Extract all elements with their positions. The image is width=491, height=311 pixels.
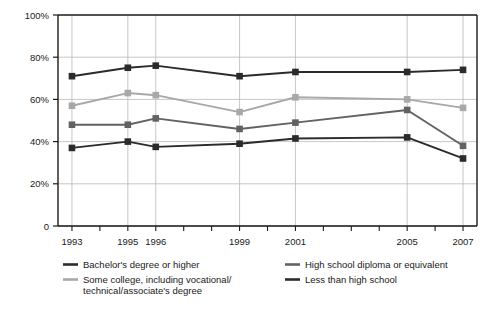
- data-point-marker: [460, 67, 467, 74]
- data-point-marker: [404, 69, 411, 76]
- data-point-marker: [404, 134, 411, 141]
- data-point-marker: [460, 155, 467, 162]
- legend-item: Bachelor's degree or higher: [63, 259, 199, 270]
- y-axis-tick-label: 100%: [25, 10, 50, 21]
- data-point-marker: [125, 64, 132, 71]
- data-point-marker: [125, 138, 132, 145]
- x-axis-tick-label: 1999: [229, 236, 250, 247]
- legend-label: High school diploma or equivalent: [305, 259, 448, 270]
- x-axis-tick-label: 2007: [452, 236, 473, 247]
- data-point-marker: [292, 135, 299, 142]
- y-axis-tick-label: 80%: [30, 52, 50, 63]
- data-point-marker: [404, 96, 411, 103]
- x-axis-tick-label: 2005: [397, 236, 418, 247]
- data-point-marker: [152, 144, 159, 151]
- x-axis-tick-label: 1993: [61, 236, 82, 247]
- data-point-marker: [236, 73, 243, 80]
- x-axis-tick-label: 1995: [117, 236, 138, 247]
- legend-item: technical/associate's degree: [83, 285, 202, 296]
- data-point-marker: [460, 105, 467, 112]
- data-point-marker: [125, 121, 132, 128]
- y-axis-tick-label: 40%: [30, 136, 50, 147]
- data-point-marker: [236, 140, 243, 147]
- data-point-marker: [69, 102, 76, 109]
- data-point-marker: [236, 126, 243, 133]
- data-point-marker: [292, 119, 299, 126]
- x-axis-tick-label: 1996: [145, 236, 166, 247]
- data-point-marker: [125, 90, 132, 97]
- y-axis-tick-label: 20%: [30, 178, 50, 189]
- data-point-marker: [152, 92, 159, 99]
- legend-item: High school diploma or equivalent: [285, 259, 448, 270]
- chart-container: 100%80%60%40%20%0 1993199519961999200120…: [0, 0, 491, 311]
- legend-item: Some college, including vocational/: [63, 274, 232, 285]
- line-chart: 100%80%60%40%20%0 1993199519961999200120…: [0, 0, 491, 311]
- y-axis-tick-label: 60%: [30, 94, 50, 105]
- data-point-marker: [460, 143, 467, 150]
- data-point-marker: [69, 73, 76, 80]
- data-point-marker: [69, 145, 76, 152]
- data-point-marker: [292, 69, 299, 76]
- x-axis-tick-label: 2001: [285, 236, 306, 247]
- data-point-marker: [292, 94, 299, 101]
- legend-label: Bachelor's degree or higher: [83, 259, 199, 270]
- data-point-marker: [152, 62, 159, 69]
- data-point-marker: [69, 121, 76, 128]
- data-point-marker: [152, 115, 159, 122]
- legend-label: Less than high school: [305, 274, 397, 285]
- data-point-marker: [404, 107, 411, 114]
- legend-label: Some college, including vocational/: [83, 274, 232, 285]
- legend-label: technical/associate's degree: [83, 285, 202, 296]
- y-axis-tick-label: 0: [44, 221, 49, 232]
- data-point-marker: [236, 109, 243, 116]
